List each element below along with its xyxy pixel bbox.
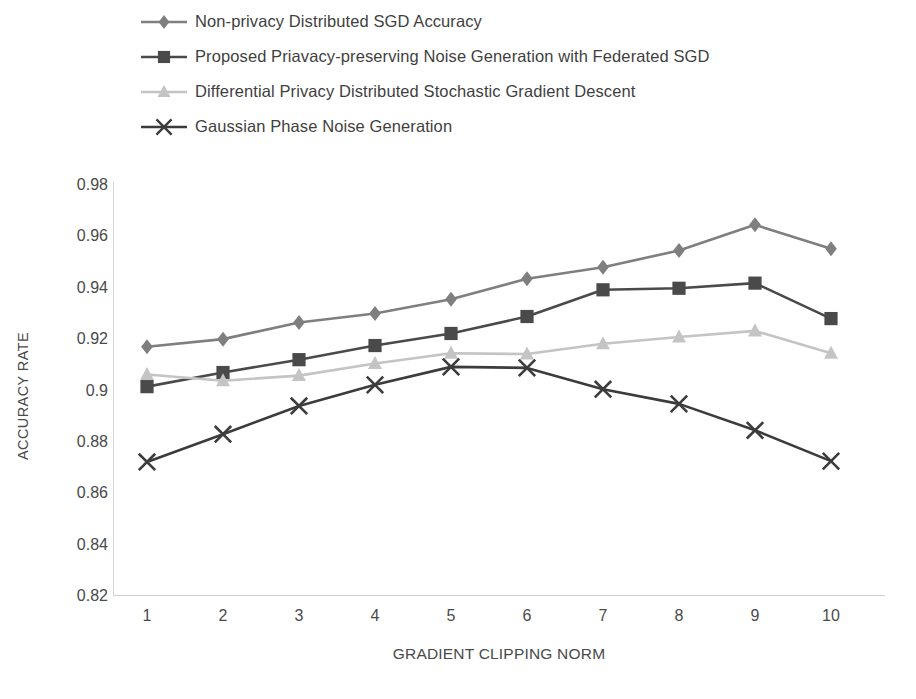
series-3 — [140, 323, 838, 386]
data-point — [520, 310, 533, 323]
data-point — [293, 315, 305, 330]
data-point — [748, 323, 762, 336]
data-point — [823, 453, 839, 469]
data-point — [596, 283, 609, 296]
data-point — [368, 339, 381, 352]
data-point — [673, 243, 685, 258]
x-axis-tick: 2 — [219, 607, 228, 625]
data-point — [140, 380, 153, 393]
data-point — [445, 292, 457, 307]
x-axis-tick: 8 — [675, 607, 684, 625]
data-point — [597, 260, 609, 275]
data-point — [291, 398, 307, 414]
data-point — [824, 312, 837, 325]
x-axis-tick: 1 — [143, 607, 152, 625]
accuracy-rate-line-chart: Non-privacy Distributed SGD AccuracyProp… — [0, 0, 916, 699]
x-axis-tick: 7 — [599, 607, 608, 625]
data-point — [217, 332, 229, 347]
x-axis-tick: 10 — [822, 607, 840, 625]
x-axis-tick-labels: 12345678910 — [113, 607, 885, 631]
series-4 — [139, 359, 839, 470]
y-axis-title: ACCURACY RATE — [15, 316, 31, 476]
data-point — [292, 353, 305, 366]
series-layer — [0, 0, 916, 699]
data-point — [444, 327, 457, 340]
x-axis-tick: 5 — [447, 607, 456, 625]
data-point — [672, 282, 685, 295]
data-point — [367, 377, 383, 393]
x-axis-tick: 4 — [371, 607, 380, 625]
x-axis-title: GRADIENT CLIPPING NORM — [113, 645, 885, 663]
x-axis-tick: 3 — [295, 607, 304, 625]
data-point — [521, 271, 533, 286]
data-point — [139, 454, 155, 470]
data-point — [140, 367, 154, 380]
data-point — [141, 339, 153, 354]
data-point — [369, 306, 381, 321]
x-axis-tick: 6 — [523, 607, 532, 625]
data-point — [749, 217, 761, 232]
data-point — [748, 277, 761, 290]
x-axis-tick: 9 — [751, 607, 760, 625]
data-point — [747, 422, 763, 438]
data-point — [215, 426, 231, 442]
data-point — [825, 241, 837, 256]
